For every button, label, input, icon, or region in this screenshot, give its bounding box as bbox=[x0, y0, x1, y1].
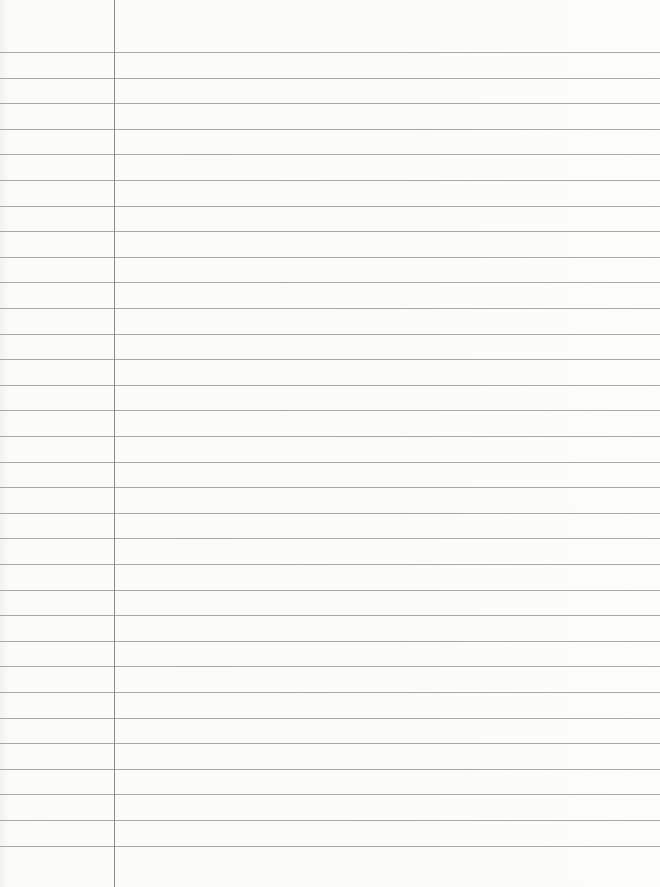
ruled-line bbox=[0, 231, 660, 232]
ruled-line bbox=[0, 154, 660, 155]
ruled-line bbox=[0, 462, 660, 463]
ruled-line bbox=[0, 564, 660, 565]
ruled-line bbox=[0, 820, 660, 821]
ruled-line bbox=[0, 846, 660, 847]
ruled-line bbox=[0, 103, 660, 104]
ruled-line bbox=[0, 794, 660, 795]
ruled-line bbox=[0, 308, 660, 309]
ruled-line bbox=[0, 743, 660, 744]
ruled-line bbox=[0, 385, 660, 386]
ruled-line bbox=[0, 129, 660, 130]
ruled-line bbox=[0, 666, 660, 667]
ruled-line bbox=[0, 718, 660, 719]
ruled-line bbox=[0, 513, 660, 514]
ruled-line bbox=[0, 641, 660, 642]
ruled-line bbox=[0, 615, 660, 616]
ruled-line bbox=[0, 590, 660, 591]
ruled-line bbox=[0, 257, 660, 258]
margin-line bbox=[114, 0, 115, 887]
ruled-line bbox=[0, 487, 660, 488]
ruled-line bbox=[0, 692, 660, 693]
lined-paper bbox=[0, 0, 660, 887]
ruled-line bbox=[0, 52, 660, 53]
ruled-line bbox=[0, 538, 660, 539]
ruled-line bbox=[0, 410, 660, 411]
ruled-line bbox=[0, 359, 660, 360]
ruled-line bbox=[0, 282, 660, 283]
ruled-line bbox=[0, 769, 660, 770]
ruled-line bbox=[0, 78, 660, 79]
ruled-line bbox=[0, 180, 660, 181]
ruled-line bbox=[0, 436, 660, 437]
ruled-line bbox=[0, 206, 660, 207]
ruled-line bbox=[0, 334, 660, 335]
